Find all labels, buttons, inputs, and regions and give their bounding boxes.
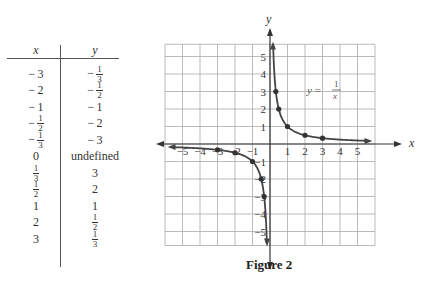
figure-caption: Figure 2 bbox=[246, 257, 292, 273]
data-point bbox=[302, 133, 307, 138]
x-tick-label: 4 bbox=[337, 145, 343, 157]
svg-text:y =: y = bbox=[306, 84, 321, 96]
y-tick-label: 4 bbox=[261, 68, 267, 80]
y-axis-arrow-up-icon bbox=[267, 28, 273, 36]
data-point bbox=[232, 150, 237, 155]
function-label: y =1x bbox=[306, 79, 341, 101]
x-axis-label: x bbox=[408, 136, 415, 150]
x-tick-label: 3 bbox=[320, 145, 326, 157]
svg-text:1: 1 bbox=[334, 79, 339, 89]
x-axis-arrow-right-icon bbox=[394, 141, 402, 147]
data-point bbox=[320, 136, 325, 141]
reciprocal-graph: xy−5−4−3−2−112345−5−4−3−2−112345y =1x bbox=[0, 0, 422, 281]
data-point bbox=[276, 106, 281, 111]
x-tick-label: 5 bbox=[355, 145, 361, 157]
y-tick-label: −5 bbox=[254, 226, 266, 238]
x-tick-label: 2 bbox=[302, 145, 308, 157]
y-tick-label: 2 bbox=[261, 103, 267, 115]
data-point bbox=[285, 124, 290, 129]
y-tick-label: 1 bbox=[261, 121, 267, 133]
data-point bbox=[273, 89, 278, 94]
y-axis-label: y bbox=[265, 12, 272, 26]
x-axis-arrow-left-icon bbox=[156, 141, 164, 147]
curve-arrow-icon bbox=[365, 138, 373, 144]
data-point bbox=[259, 176, 264, 181]
data-point bbox=[250, 159, 255, 164]
curve-arrow-icon bbox=[270, 42, 276, 50]
y-tick-label: 3 bbox=[261, 86, 267, 98]
curve-arrow-icon bbox=[168, 144, 176, 150]
data-point bbox=[262, 194, 267, 199]
data-point bbox=[215, 147, 220, 152]
x-tick-label: −4 bbox=[194, 145, 206, 157]
y-tick-label: 5 bbox=[261, 51, 267, 63]
x-tick-label: 1 bbox=[285, 145, 291, 157]
svg-text:x: x bbox=[332, 91, 337, 101]
